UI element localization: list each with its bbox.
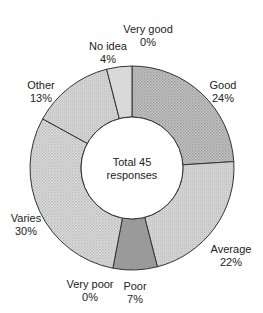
label-no-idea: No idea 4% xyxy=(89,40,127,66)
label-very-good: Very good 0% xyxy=(123,23,173,49)
label-poor-pct: 7% xyxy=(123,293,146,306)
label-no-idea-name: No idea xyxy=(89,40,127,53)
label-average-name: Average xyxy=(211,243,252,256)
label-very-good-pct: 0% xyxy=(123,36,173,49)
label-no-idea-pct: 4% xyxy=(89,53,127,66)
label-poor-name: Poor xyxy=(123,280,146,293)
label-varies: Varies 30% xyxy=(11,212,41,238)
label-good-name: Good xyxy=(210,79,237,92)
label-very-poor-name: Very poor xyxy=(66,278,113,291)
label-average-pct: 22% xyxy=(211,256,252,269)
label-other-pct: 13% xyxy=(27,92,55,105)
label-poor: Poor 7% xyxy=(123,280,146,306)
label-varies-pct: 30% xyxy=(11,225,41,238)
label-other: Other 13% xyxy=(27,79,55,105)
center-label: Total 45 responses xyxy=(107,156,158,182)
label-average: Average 22% xyxy=(211,243,252,269)
label-varies-name: Varies xyxy=(11,212,41,225)
label-good-pct: 24% xyxy=(210,92,237,105)
center-label-line2: responses xyxy=(107,169,158,182)
label-very-poor: Very poor 0% xyxy=(66,278,113,304)
label-good: Good 24% xyxy=(210,79,237,105)
center-label-line1: Total 45 xyxy=(107,156,158,169)
label-very-poor-pct: 0% xyxy=(66,291,113,304)
label-very-good-name: Very good xyxy=(123,23,173,36)
label-other-name: Other xyxy=(27,79,55,92)
